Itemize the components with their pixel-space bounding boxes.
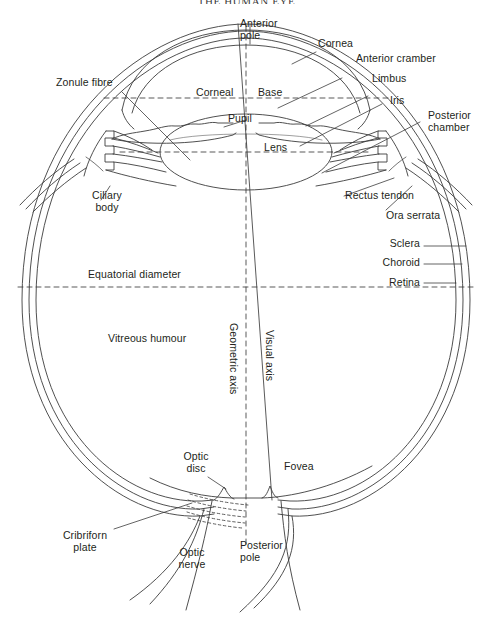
eye-cross-section-drawing	[0, 0, 493, 617]
label-rectus-tendon: Rectus tendon	[345, 190, 414, 202]
label-ciliary-body: Ciliary body	[78, 190, 136, 213]
label-anterior-pole: Anterior pole	[240, 18, 278, 41]
label-retina: Retina	[330, 277, 420, 289]
label-equatorial-diameter: Equatorial diameter	[88, 269, 181, 281]
label-optic-disc: Optic disc	[172, 451, 220, 474]
label-limbus: Limbus	[372, 73, 406, 85]
label-anterior-chamber: Anterior cramber	[356, 53, 436, 65]
label-geometric-axis: Geometric axis	[228, 323, 240, 394]
label-ora-serrata: Ora serrata	[386, 210, 440, 222]
label-posterior-pole: Posterior pole	[240, 540, 283, 563]
label-lens: Lens	[264, 142, 287, 154]
label-base: Base	[258, 87, 282, 99]
label-pupil: Pupil	[228, 113, 252, 125]
label-cribriform-plate: Cribriforn plate	[52, 530, 118, 553]
cribriform-plate	[187, 494, 248, 528]
label-choroid: Choroid	[330, 257, 420, 269]
rectus-tendon-right	[389, 157, 472, 212]
label-cornea: Cornea	[318, 38, 353, 50]
label-corneal: Corneal	[196, 87, 233, 99]
label-posterior-chamber: Posterior chamber	[428, 110, 471, 133]
label-sclera: Sclera	[330, 238, 420, 250]
label-zonule-fibre: Zonule fibre	[56, 77, 113, 89]
ciliary-body-right	[316, 131, 387, 186]
label-vitreous-humour: Vitreous humour	[108, 333, 186, 345]
human-eye-diagram: THE HUMAN EYE	[0, 0, 493, 617]
label-optic-nerve: Optic nerve	[170, 547, 214, 570]
ciliary-body-left	[105, 131, 176, 186]
chamber-boundary-left	[84, 131, 106, 176]
label-fovea: Fovea	[284, 461, 314, 473]
label-iris: Iris	[390, 95, 404, 107]
label-visual-axis: Visual axis	[264, 330, 276, 381]
fovea-notch	[262, 486, 278, 498]
